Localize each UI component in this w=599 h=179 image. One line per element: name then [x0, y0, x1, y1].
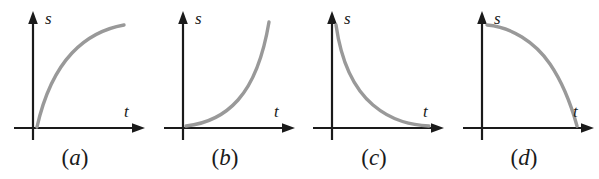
- graph-panel-b: s t (b): [150, 0, 300, 179]
- graph-panel-a: s t (a): [0, 0, 150, 179]
- graph-panel-c: s t (c): [299, 0, 449, 179]
- graph-panel-a-plot: s t: [0, 0, 150, 143]
- curve-a: [37, 25, 124, 127]
- x-axis-label-d: t: [573, 102, 579, 121]
- panel-caption-d: (d): [449, 143, 599, 173]
- x-axis-label-a: t: [124, 102, 130, 121]
- y-axis-label-c: s: [344, 9, 351, 28]
- caption-letter-c: c: [369, 145, 379, 170]
- y-axis-a: [28, 11, 38, 140]
- caption-paren-open-c: (: [361, 145, 369, 170]
- y-axis-label-b: s: [195, 9, 202, 28]
- caption-paren-close-b: ): [231, 145, 239, 170]
- caption-paren-close-d: ): [530, 145, 538, 170]
- y-axis-d: [477, 11, 487, 140]
- caption-paren-close-a: ): [81, 145, 89, 170]
- graph-panel-b-plot: s t: [150, 0, 300, 143]
- panel-caption-b: (b): [150, 143, 300, 173]
- panel-caption-a: (a): [0, 143, 150, 173]
- y-axis-label-a: s: [45, 9, 52, 28]
- curve-b: [186, 22, 269, 126]
- curve-d: [487, 25, 577, 126]
- caption-paren-close-c: ): [379, 145, 387, 170]
- x-axis-label-c: t: [423, 102, 429, 121]
- y-axis-label-d: s: [494, 9, 501, 28]
- panel-caption-c: (c): [299, 143, 449, 173]
- graph-panel-d: s t (d): [449, 0, 599, 179]
- x-axis-label-b: t: [274, 102, 280, 121]
- caption-letter-b: b: [219, 145, 231, 170]
- y-axis-b: [178, 11, 188, 140]
- caption-letter-a: a: [69, 145, 81, 170]
- caption-letter-d: d: [518, 145, 530, 170]
- curve-c: [336, 25, 429, 126]
- graph-panel-d-plot: s t: [449, 0, 599, 143]
- physics-graph-figure: s t (a) s t (b): [0, 0, 599, 179]
- graph-panel-c-plot: s t: [299, 0, 449, 143]
